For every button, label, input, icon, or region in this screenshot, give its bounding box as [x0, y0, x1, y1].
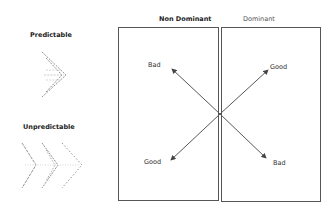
label-bad-top-left: Bad [148, 61, 161, 69]
label-good-top-right: Good [270, 63, 287, 71]
non-dominant-box [118, 27, 219, 201]
unpredictable-chevrons-icon [22, 143, 82, 188]
non-dominant-header: Non Dominant [159, 15, 211, 23]
label-good-bottom-left: Good [144, 158, 161, 166]
predictable-chevron-icon [42, 52, 66, 97]
dominant-box [221, 27, 321, 202]
label-bad-bottom-right: Bad [273, 159, 286, 167]
dominant-header: Dominant [243, 15, 275, 23]
